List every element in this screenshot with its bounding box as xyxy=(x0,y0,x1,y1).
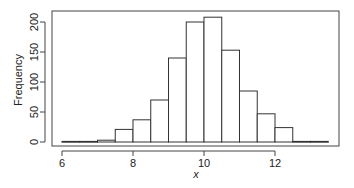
histogram-bars xyxy=(62,17,328,142)
y-tick-label: 100 xyxy=(28,73,40,91)
y-tick-label: 0 xyxy=(28,139,40,145)
histogram-bar xyxy=(275,128,293,142)
y-tick-label: 150 xyxy=(28,43,40,61)
x-tick-label: 12 xyxy=(269,157,281,169)
histogram-chart: 050100150200 681012 Frequency x xyxy=(0,0,354,188)
x-tick-label: 6 xyxy=(59,157,65,169)
histogram-bar xyxy=(222,50,240,142)
histogram-bar xyxy=(62,141,80,142)
histogram-bar xyxy=(257,114,275,142)
histogram-bar xyxy=(80,141,98,142)
y-axis-label: Frequency xyxy=(12,54,24,106)
x-axis-label: x xyxy=(192,168,199,180)
histogram-bar xyxy=(204,17,222,142)
histogram-bar xyxy=(151,100,169,142)
histogram-bar xyxy=(98,140,116,142)
histogram-bar xyxy=(186,22,204,142)
histogram-bar xyxy=(115,129,133,142)
histogram-bar xyxy=(293,141,311,142)
x-tick-label: 10 xyxy=(198,157,210,169)
x-axis: 681012 xyxy=(59,151,281,169)
histogram-bar xyxy=(133,120,151,142)
y-tick-label: 200 xyxy=(28,13,40,31)
histogram-bar xyxy=(311,141,329,142)
y-tick-label: 50 xyxy=(28,106,40,118)
x-tick-label: 8 xyxy=(130,157,136,169)
histogram-bar xyxy=(240,91,258,142)
histogram-bar xyxy=(169,58,187,142)
y-axis: 050100150200 xyxy=(28,13,45,145)
